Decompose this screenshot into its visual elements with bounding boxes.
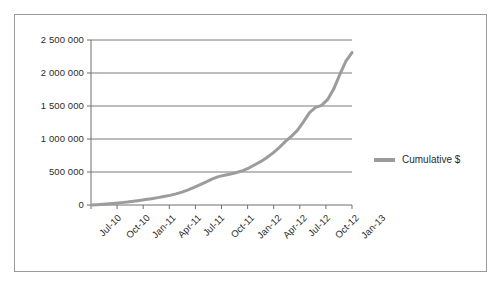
y-axis-tick-label: 500 000 — [49, 166, 84, 177]
x-axis-ticks — [91, 205, 352, 209]
y-axis-tick-label: 2 000 000 — [41, 67, 84, 78]
legend-series-label: Cumulative $ — [402, 154, 460, 165]
chart-plot-area — [15, 15, 486, 271]
legend-color-swatch — [374, 158, 395, 162]
chart-frame: 0500 0001 000 0001 500 0002 000 0002 500… — [14, 14, 487, 272]
y-axis-tick-label: 2 500 000 — [41, 34, 84, 45]
y-axis-ticks — [87, 40, 91, 205]
series-line-cumulative — [91, 53, 352, 205]
y-axis-tick-label: 0 — [79, 199, 84, 210]
chart-legend: Cumulative $ — [374, 154, 460, 165]
y-axis-tick-label: 1 000 000 — [41, 133, 84, 144]
gridlines — [91, 40, 352, 172]
y-axis-tick-label: 1 500 000 — [41, 100, 84, 111]
